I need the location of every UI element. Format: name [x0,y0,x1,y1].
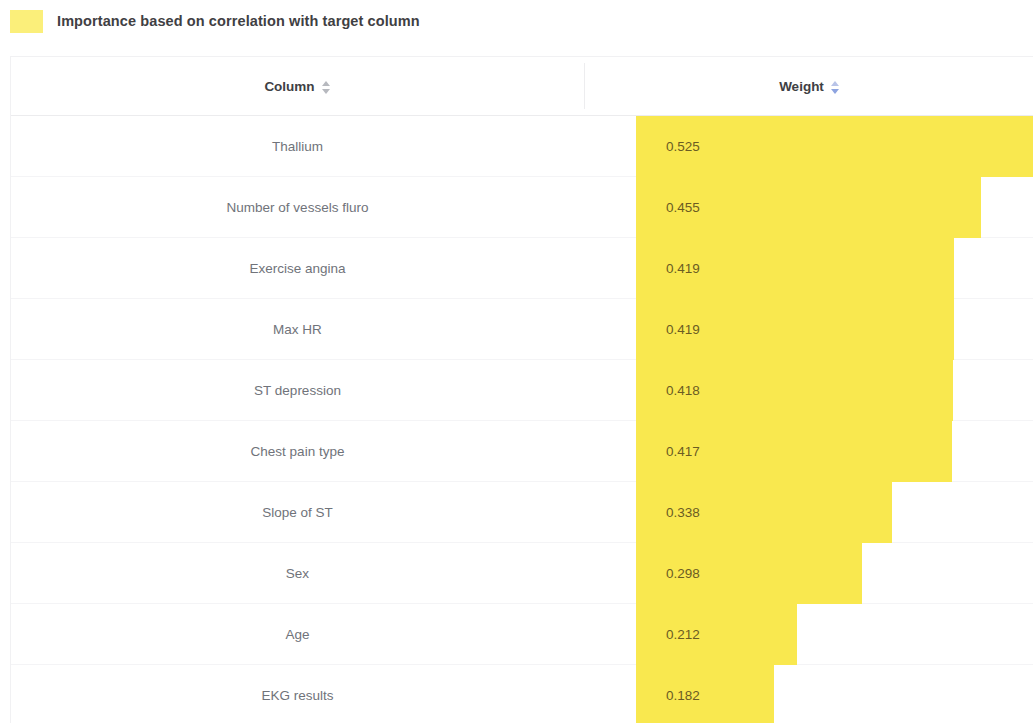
legend: Importance based on correlation with tar… [0,0,1033,42]
table-row[interactable]: Exercise angina0.419 [11,238,1033,299]
column-header-column-label: Column [264,79,314,94]
table-body: Thallium0.525Number of vessels fluro0.45… [11,116,1033,723]
cell-weight: 0.419 [585,299,1033,360]
table-header-row: Column Weight [11,57,1033,116]
cell-weight: 0.182 [585,665,1033,723]
cell-column-name: Slope of ST [11,482,584,542]
cell-column-name: Age [11,604,584,664]
column-header-column[interactable]: Column [11,57,584,115]
cell-column-name: Thallium [11,116,584,176]
column-header-weight-label: Weight [779,79,824,94]
cell-column-name: Exercise angina [11,238,584,298]
cell-column-name: ST depression [11,360,584,420]
weight-value-label: 0.418 [666,360,700,421]
cell-weight: 0.419 [585,238,1033,299]
sort-toggle-column-icon[interactable] [322,80,331,95]
cell-weight: 0.417 [585,421,1033,482]
table-row[interactable]: Number of vessels fluro0.455 [11,177,1033,238]
cell-column-name: Chest pain type [11,421,584,481]
cell-weight: 0.525 [585,116,1033,177]
weight-value-label: 0.419 [666,299,700,360]
sort-toggle-weight-icon[interactable] [831,80,840,95]
table-row[interactable]: Age0.212 [11,604,1033,665]
weight-value-label: 0.182 [666,665,700,723]
table-row[interactable]: Chest pain type0.417 [11,421,1033,482]
importance-table-panel: Importance based on correlation with tar… [0,0,1033,723]
legend-color-swatch [10,10,43,33]
cell-weight: 0.212 [585,604,1033,665]
weight-bar [636,665,774,723]
weight-value-label: 0.212 [666,604,700,665]
cell-weight: 0.455 [585,177,1033,238]
weight-value-label: 0.455 [666,177,700,238]
importance-table: Column Weight Thallium0.525Number of ves… [10,56,1033,723]
table-row[interactable]: EKG results0.182 [11,665,1033,723]
weight-value-label: 0.419 [666,238,700,299]
table-row[interactable]: ST depression0.418 [11,360,1033,421]
table-row[interactable]: Max HR0.419 [11,299,1033,360]
cell-weight: 0.418 [585,360,1033,421]
table-row[interactable]: Sex0.298 [11,543,1033,604]
weight-value-label: 0.417 [666,421,700,482]
cell-column-name: Number of vessels fluro [11,177,584,237]
cell-column-name: Sex [11,543,584,603]
table-row[interactable]: Slope of ST0.338 [11,482,1033,543]
cell-column-name: EKG results [11,665,584,723]
cell-column-name: Max HR [11,299,584,359]
table-row[interactable]: Thallium0.525 [11,116,1033,177]
cell-weight: 0.338 [585,482,1033,543]
weight-value-label: 0.298 [666,543,700,604]
cell-weight: 0.298 [585,543,1033,604]
column-header-weight[interactable]: Weight [585,57,1033,115]
weight-bar [636,604,797,665]
legend-title: Importance based on correlation with tar… [57,13,420,29]
weight-value-label: 0.525 [666,116,700,177]
weight-value-label: 0.338 [666,482,700,543]
